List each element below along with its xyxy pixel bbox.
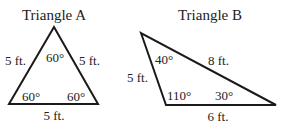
triangle-a: Triangle A 5 ft. 5 ft. 5 ft. 60° 60° 60°	[5, 7, 100, 123]
triangle-b-title: Triangle B	[178, 7, 242, 23]
triangle-a-side-left: 5 ft.	[5, 53, 26, 68]
triangle-b: Triangle B 5 ft. 8 ft. 6 ft. 40° 110° 30…	[127, 7, 276, 124]
triangle-a-title: Triangle A	[22, 7, 86, 23]
triangle-a-angle-bottom-left: 60°	[22, 89, 40, 104]
triangle-b-side-hypotenuse: 8 ft.	[208, 53, 229, 68]
triangle-b-shape	[141, 33, 276, 105]
triangles-diagram: Triangle A 5 ft. 5 ft. 5 ft. 60° 60° 60°…	[0, 0, 282, 134]
triangle-a-angle-bottom-right: 60°	[67, 89, 85, 104]
triangle-a-angle-top: 60°	[46, 50, 64, 65]
triangle-b-angle-bottom-right: 30°	[215, 88, 233, 103]
triangle-a-side-bottom: 5 ft.	[44, 108, 65, 123]
triangle-b-angle-bottom-left: 110°	[167, 88, 191, 103]
triangle-b-angle-top: 40°	[155, 52, 173, 67]
triangle-b-side-bottom: 6 ft.	[208, 109, 229, 124]
triangle-a-side-right: 5 ft.	[79, 53, 100, 68]
triangle-b-side-left: 5 ft.	[127, 70, 148, 85]
